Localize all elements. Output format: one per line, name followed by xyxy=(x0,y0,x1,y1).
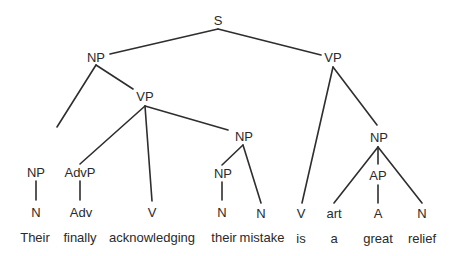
word-acknowledging: acknowledging xyxy=(109,231,195,244)
word-mistake: mistake xyxy=(240,231,285,244)
tree-edges xyxy=(0,0,458,256)
word-their-2: their xyxy=(211,231,236,244)
node-np-object: NP xyxy=(235,130,253,143)
node-art: art xyxy=(326,207,341,220)
node-np-possessive: NP xyxy=(27,166,45,179)
node-n-their: N xyxy=(31,206,40,219)
word-finally: finally xyxy=(63,231,96,244)
node-np-predicate: NP xyxy=(370,131,388,144)
word-great: great xyxy=(363,232,393,245)
node-v-acknowledging: V xyxy=(148,206,157,219)
node-advp: AdvP xyxy=(64,166,95,179)
node-a: A xyxy=(374,207,383,220)
word-relief: relief xyxy=(408,232,436,245)
node-np-subject: NP xyxy=(87,51,105,64)
word-is: is xyxy=(296,232,305,245)
word-a: a xyxy=(330,232,337,245)
node-n-mistake: N xyxy=(256,207,265,220)
node-n-relief: N xyxy=(417,207,426,220)
node-n-their2: N xyxy=(217,206,226,219)
node-vp-inner: VP xyxy=(136,90,153,103)
node-ap: AP xyxy=(369,169,386,182)
node-vp-main: VP xyxy=(324,51,341,64)
node-np-determiner: NP xyxy=(214,167,232,180)
node-v-is: V xyxy=(297,207,306,220)
word-their: Their xyxy=(20,231,50,244)
node-s: S xyxy=(214,14,223,27)
node-adv: Adv xyxy=(70,206,92,219)
